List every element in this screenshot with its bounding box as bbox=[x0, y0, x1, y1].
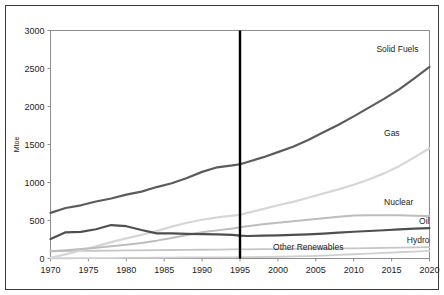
series-label-hydro: Hydro bbox=[407, 235, 430, 245]
x-tick-label: 2020 bbox=[419, 265, 439, 275]
series-label-oil: Oil bbox=[419, 216, 430, 226]
x-tick-label: 1980 bbox=[116, 265, 136, 275]
x-tick-label: 1985 bbox=[154, 265, 174, 275]
y-tick-label: 2500 bbox=[24, 64, 44, 74]
x-tick-label: 2015 bbox=[382, 265, 402, 275]
series-label-gas: Gas bbox=[384, 128, 400, 138]
chart-figure: 0500100015002000250030001970197519801985… bbox=[0, 0, 444, 295]
y-tick-label: 2000 bbox=[24, 102, 44, 112]
y-tick-label: 1000 bbox=[24, 178, 44, 188]
y-tick-label: 1500 bbox=[24, 140, 44, 150]
x-tick-label: 1995 bbox=[230, 265, 250, 275]
x-tick-label: 2010 bbox=[344, 265, 364, 275]
x-tick-label: 1970 bbox=[40, 265, 60, 275]
y-tick-label: 0 bbox=[39, 254, 44, 264]
line-chart: 0500100015002000250030001970197519801985… bbox=[0, 0, 444, 295]
x-tick-label: 1975 bbox=[78, 265, 98, 275]
y-axis-title: Mtoe bbox=[13, 137, 20, 153]
series-label-other-renewables: Other Renewables bbox=[273, 242, 343, 252]
y-tick-label: 500 bbox=[29, 216, 44, 226]
x-tick-label: 2005 bbox=[306, 265, 326, 275]
series-label-nuclear: Nuclear bbox=[384, 197, 413, 207]
x-tick-label: 1990 bbox=[192, 265, 212, 275]
y-tick-label: 3000 bbox=[24, 26, 44, 36]
series-label-solid-fuels: Solid Fuels bbox=[376, 44, 418, 54]
x-tick-label: 2000 bbox=[268, 265, 288, 275]
